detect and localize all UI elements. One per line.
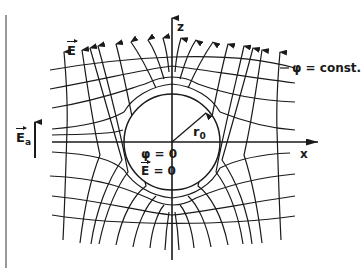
- equipotential-label: φ = const.: [292, 62, 361, 74]
- x-axis-label: x: [300, 148, 308, 160]
- radius-label: r0: [193, 125, 206, 141]
- external-field-label: Ea: [16, 131, 31, 147]
- radius-subscript: 0: [199, 131, 205, 141]
- inside-field-symbol: E: [141, 165, 149, 177]
- z-axis-label: z: [177, 21, 184, 33]
- inside-field-label: E = 0: [141, 165, 176, 177]
- external-field-symbol: E: [16, 131, 25, 144]
- external-field-subscript: a: [25, 137, 31, 147]
- inside-potential-label: φ = 0: [141, 148, 177, 160]
- inside-field-value: = 0: [149, 164, 176, 178]
- field-E-label: E: [67, 44, 76, 57]
- field-E-symbol: E: [67, 44, 76, 57]
